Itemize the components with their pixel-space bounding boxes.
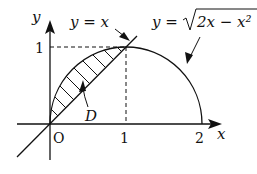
y-tick-1: 1 xyxy=(35,40,44,56)
pointer-arrow-icon xyxy=(79,80,86,92)
semicircle-radicand: 2x − x² xyxy=(196,13,252,31)
y-axis-label: y xyxy=(31,8,41,26)
line-label: y = x xyxy=(69,13,110,31)
x-axis-label: x xyxy=(217,125,226,143)
pointer-line-semicircle xyxy=(191,37,200,55)
semicircle-label-prefix: y = xyxy=(151,13,178,31)
x-tick-1: 1 xyxy=(120,130,129,146)
x-tick-2: 2 xyxy=(195,130,204,146)
origin-label: O xyxy=(53,130,64,146)
region-label: D xyxy=(84,107,97,125)
diagram: y x O 1 2 1 y = x y = 2x − x² D xyxy=(0,0,257,174)
